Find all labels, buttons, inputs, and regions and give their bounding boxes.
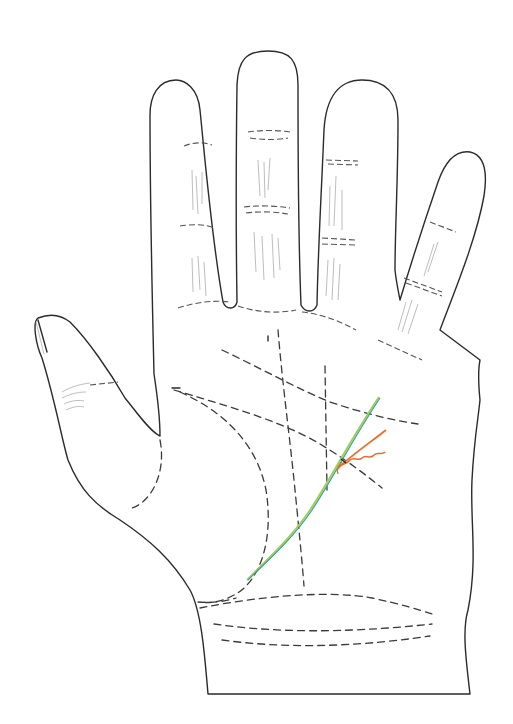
little-crease-2 [404,278,442,292]
highlighted-line-green [247,397,379,580]
middle-base-crease [238,306,296,312]
sun-line [325,366,327,490]
wrist-line-3 [222,636,430,646]
wrist-line-1 [200,594,432,614]
middle-crease-2b [246,212,288,214]
wrist-line-2 [214,624,432,631]
middle-crease-1 [248,131,290,133]
index-crease-2 [180,225,214,228]
middle-crease-2 [244,206,290,208]
fate-line [278,330,304,586]
thumb-base-line [132,440,162,508]
ring-crease-1b [328,164,358,165]
ring-crease-2 [322,238,356,240]
thumb-wrinkles [62,383,90,410]
index-fine-lines [192,170,206,296]
middle-fine-lines [254,158,280,280]
index-crease-1 [184,143,212,146]
wrist-line-0 [198,598,236,602]
ring-crease-2b [322,244,356,245]
ring-base-crease [302,312,356,330]
ring-crease-1 [326,160,358,161]
hand-outline [35,51,485,694]
little-crease-1 [430,222,456,232]
heart-line [222,350,418,424]
little-base-crease [378,340,422,360]
ring-fine-lines [326,176,342,300]
middle-crease-1b [250,138,288,140]
hand-svg [0,0,513,724]
palm-diagram [0,0,513,724]
index-base-crease [178,301,230,308]
thumb-crease [90,382,118,385]
